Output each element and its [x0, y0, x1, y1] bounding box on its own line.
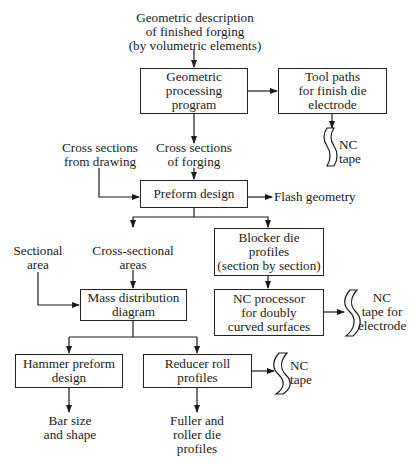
box-tool-paths: Tool paths for finish die electrode — [278, 68, 387, 114]
box-label: Reducer roll profiles — [165, 357, 231, 385]
box-reducer-roll: Reducer roll profiles — [143, 354, 252, 388]
box-label: Tool paths for finish die electrode — [298, 70, 366, 112]
label-cross-sectional-areas: Cross-sectional areas — [88, 244, 178, 272]
box-hammer-preform: Hammer preform design — [15, 354, 123, 388]
output-bar-size: Bar size and shape — [35, 414, 105, 442]
input-sectional-area: Sectional area — [10, 244, 66, 272]
label-cross-sections-forging: Cross sections of forging — [150, 141, 238, 169]
box-preform-design: Preform design — [140, 180, 248, 208]
output-nc-tape-1: NC tape — [339, 138, 365, 166]
input-cross-sections-drawing: Cross sections from drawing — [58, 141, 142, 169]
box-blocker-die: Blocker die profiles (section by section… — [214, 228, 324, 276]
output-nc-tape-electrode: NC tape for electrode — [358, 291, 406, 333]
box-geometric-processing: Geometric processing program — [140, 68, 248, 114]
output-fuller-roller: Fuller and roller die profiles — [160, 414, 234, 456]
box-label: Hammer preform design — [23, 357, 115, 385]
box-label: Geometric processing program — [166, 70, 222, 112]
output-nc-tape-3: NC tape — [290, 359, 320, 387]
input-geometric-description: Geometric description of finished forgin… — [120, 11, 270, 53]
output-flash-geometry: Flash geometry — [274, 190, 354, 204]
box-label: Preform design — [154, 187, 235, 201]
box-mass-distribution: Mass distribution diagram — [80, 289, 187, 321]
box-nc-processor: NC processor for doubly curved surfaces — [214, 289, 324, 336]
box-label: Blocker die profiles (section by section… — [217, 231, 320, 273]
box-label: Mass distribution diagram — [88, 291, 180, 319]
box-label: NC processor for doubly curved surfaces — [228, 292, 310, 334]
